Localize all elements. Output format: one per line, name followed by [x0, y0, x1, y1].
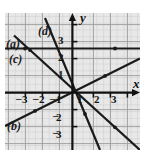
- x-tick-neg2-minus: –: [33, 93, 39, 104]
- x-tick-neg3: 3: [22, 94, 28, 105]
- x-tick-1: 1: [77, 94, 83, 105]
- curve-label-b: (b): [7, 120, 21, 132]
- y-tick-2: 2: [58, 52, 64, 63]
- plot-area: [5, 13, 140, 150]
- x-tick-2: 2: [94, 94, 100, 105]
- x-tick-neg2: 2: [39, 94, 45, 105]
- x-axis-label: x: [133, 77, 140, 90]
- curve-label-d: (d): [38, 25, 52, 37]
- graph-figure: y x 3 2 1 2 3 – – 3 2 1 – – – 1 2 3 (a) …: [0, 0, 146, 161]
- y-tick-neg2-minus: –: [53, 110, 59, 121]
- x-tick-neg3-minus: –: [16, 93, 22, 104]
- x-tick-neg1-minus: –: [50, 93, 56, 104]
- y-tick-1: 1: [58, 69, 64, 80]
- y-tick-neg3-minus: –: [53, 127, 59, 138]
- x-tick-neg1: 1: [56, 94, 62, 105]
- curve-label-c: (c): [9, 53, 22, 65]
- coordinate-grid-svg: [5, 13, 140, 150]
- y-axis-label: y: [80, 11, 86, 24]
- y-tick-3: 3: [58, 35, 64, 46]
- x-tick-3: 3: [111, 94, 117, 105]
- curve-label-a: (a): [6, 38, 20, 50]
